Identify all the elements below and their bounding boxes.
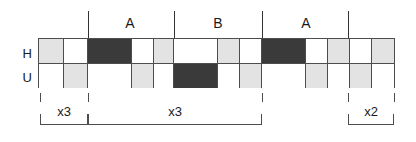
bottom-tick-mark — [88, 93, 89, 102]
grid-cell-u-6 — [218, 64, 240, 88]
repeat-unit-diagram: ABA H U x3x3x2 — [0, 0, 416, 142]
row-label-u: U — [18, 71, 32, 84]
segment-divider-line — [88, 11, 89, 39]
grid-cell-h-9 — [306, 39, 328, 63]
repeat-bracket-label: x2 — [346, 105, 396, 118]
bottom-tick-mark — [262, 93, 263, 102]
row-label-h: H — [18, 47, 32, 60]
grid-cell-u-7 — [240, 64, 262, 88]
grid-cell-h-3 — [132, 39, 154, 63]
grid-cell-u-10 — [328, 64, 350, 88]
segment-label: A — [100, 16, 160, 30]
grid-cell-u-4 — [154, 64, 174, 88]
grid-cell-u-0 — [39, 64, 64, 88]
segment-divider-line — [348, 11, 349, 39]
grid-cell-u-1 — [64, 64, 88, 88]
grid-cell-u-2 — [88, 64, 132, 88]
segment-divider-line — [262, 11, 263, 39]
bottom-tick-mark — [348, 93, 349, 102]
segment-label: B — [188, 16, 248, 30]
grid-cell-u-11 — [350, 64, 372, 88]
grid-cell-u-5 — [174, 64, 218, 88]
grid-cell-h-1 — [64, 39, 88, 63]
grid-cell-u-8 — [262, 64, 306, 88]
grid-cell-h-12 — [372, 39, 394, 63]
grid-cell-h-2 — [88, 39, 132, 63]
grid-cell-h-4 — [154, 39, 174, 63]
grid-cell-h-6 — [218, 39, 240, 63]
grid-cell-h-0 — [39, 39, 64, 63]
repeat-bracket-label: x3 — [39, 105, 89, 118]
repeat-bracket-label: x3 — [150, 105, 200, 118]
grid-cell-u-12 — [372, 64, 394, 88]
grid-cell-h-10 — [328, 39, 350, 63]
grid-cell-h-7 — [240, 39, 262, 63]
bottom-tick-mark — [394, 93, 395, 102]
bottom-tick-mark — [40, 93, 41, 102]
grid-row-u — [39, 64, 394, 88]
grid-cell-h-8 — [262, 39, 306, 63]
segment-label: A — [276, 16, 336, 30]
grid-cell-u-9 — [306, 64, 328, 88]
segment-divider-line — [174, 11, 175, 39]
grid-cell-h-11 — [350, 39, 372, 63]
cell-grid — [38, 38, 395, 88]
grid-cell-h-5 — [174, 39, 218, 63]
grid-cell-u-3 — [132, 64, 154, 88]
grid-row-h — [39, 39, 394, 63]
